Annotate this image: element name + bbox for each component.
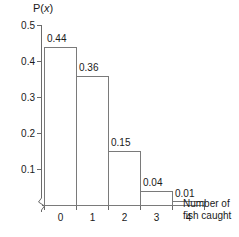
y-axis-title-prefix: P( (33, 2, 44, 14)
bar-value-label-3: 0.04 (143, 178, 162, 188)
y-tick-label-0.3: 0.3 (12, 93, 35, 103)
x-axis-title: Number of fish caught (183, 198, 231, 222)
y-tick-label-0.1: 0.1 (12, 165, 35, 175)
axis-break-icon (39, 196, 45, 212)
bar-category-0 (45, 47, 77, 205)
x-tick-label-2: 2 (112, 213, 137, 223)
y-tick-label-0.5: 0.5 (12, 21, 35, 31)
y-tick-label-0.2: 0.2 (12, 129, 35, 139)
bar-category-3 (141, 191, 173, 205)
x-axis-title-line2: fish caught (183, 210, 231, 222)
y-axis-title-suffix: ) (50, 2, 54, 14)
bar-value-label-1: 0.36 (79, 63, 98, 73)
probability-histogram-figure: P(x) 0.5 0.4 0.3 0.2 0.1 0 1 2 3 4 0.44 … (0, 0, 239, 237)
x-tick-label-3: 3 (144, 213, 169, 223)
bar-value-label-0: 0.44 (47, 34, 66, 44)
y-axis-title: P(x) (33, 3, 53, 14)
bar-category-2 (109, 152, 141, 206)
x-axis-title-line1: Number of (183, 198, 231, 210)
x-tick-label-1: 1 (80, 213, 105, 223)
x-tick-label-0: 0 (48, 213, 73, 223)
bar-value-label-2: 0.15 (111, 138, 130, 148)
bar-category-1 (77, 76, 109, 205)
y-tick-label-0.4: 0.4 (12, 57, 35, 67)
